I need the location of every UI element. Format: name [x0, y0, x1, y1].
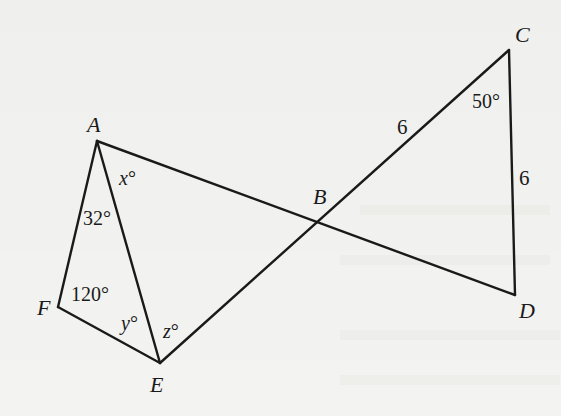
side-label-bc: 6 [397, 115, 408, 139]
vertex-label-a: A [85, 112, 101, 137]
angle-var-x: x [118, 167, 128, 189]
degree-symbol: ° [128, 167, 136, 189]
vertex-label-d: D [518, 298, 535, 323]
angle-label-y: y° [119, 312, 138, 335]
angle-var-y: y [119, 312, 130, 335]
angle-label-120: 120° [71, 283, 109, 305]
geometry-figure: A B C D E F x° 32° 120° y° z° 50° 6 6 [0, 0, 561, 416]
angle-var-z: z [162, 320, 171, 342]
side-label-cd: 6 [519, 166, 530, 190]
degree-symbol: ° [171, 320, 179, 342]
segment-ad [97, 141, 515, 295]
degree-symbol: ° [130, 312, 138, 334]
vertex-label-c: C [515, 22, 530, 47]
angle-label-z: z° [162, 320, 179, 342]
angle-label-x: x° [118, 167, 136, 189]
vertex-label-b: B [313, 184, 326, 209]
vertex-label-e: E [149, 372, 164, 397]
angle-label-50: 50° [472, 90, 500, 112]
vertex-label-f: F [36, 295, 51, 320]
figure-svg: A B C D E F x° 32° 120° y° z° 50° 6 6 [0, 0, 561, 416]
background-show-through [340, 205, 560, 385]
segment-fe [58, 307, 160, 363]
angle-label-32: 32° [83, 207, 111, 229]
